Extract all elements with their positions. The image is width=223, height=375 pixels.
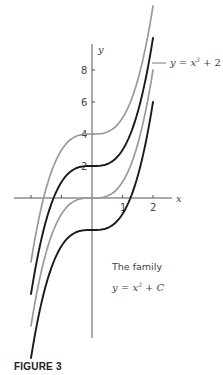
family-title: The family	[111, 261, 162, 272]
figure-caption: FIGURE 3	[14, 361, 62, 372]
chart: 1 2 2 4 6 8 x y y = x3 + 2 The family y …	[0, 0, 223, 375]
y-axis-label: y	[97, 44, 104, 55]
family-equation: y = x3 + C	[111, 281, 165, 293]
x-tick-label-2: 2	[150, 202, 156, 213]
curve-label: y = x3 + 2	[169, 56, 221, 68]
y-tick-label-8: 8	[81, 65, 87, 76]
y-tick-label-6: 6	[81, 97, 87, 108]
x-axis-label: x	[176, 193, 182, 204]
